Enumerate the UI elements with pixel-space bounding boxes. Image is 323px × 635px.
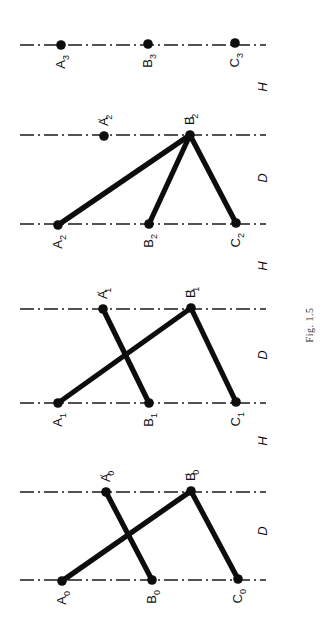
dash-dot-reference-lines (20, 45, 266, 580)
dimension-label-h-0: H (255, 82, 270, 92)
label-Aprime2: A′2 (96, 115, 114, 126)
dimension-label-d-5: D (255, 526, 270, 535)
label-C2: C2 (228, 233, 246, 247)
point-Bprime2 (185, 130, 195, 140)
label-C3: C3 (227, 53, 245, 67)
point-B0 (147, 575, 157, 585)
point-C3 (230, 38, 240, 48)
point-B2 (144, 219, 154, 229)
dimension-label-h-2: H (255, 261, 270, 271)
point-A0 (57, 576, 67, 586)
projection-diagram: A3B3C3A′2B′2A2B2C2A′1B′1A1B1C1A′0B′0A0B0… (0, 0, 323, 635)
link-segments (58, 135, 238, 581)
point-A3 (56, 40, 66, 50)
label-B2: B2 (141, 234, 159, 248)
point-Aprime0 (101, 487, 111, 497)
label-Aprime0: A′0 (98, 471, 116, 482)
dimension-label-d-3: D (255, 350, 270, 359)
point-A1 (53, 398, 63, 408)
point-B3 (143, 39, 153, 49)
joint-points (53, 38, 243, 586)
label-C0: C0 (230, 589, 248, 603)
segment-B'1-C1 (191, 308, 236, 402)
point-Aprime1 (98, 304, 108, 314)
figure-caption: Fig. 1.5 (304, 308, 315, 343)
label-Aprime1: A′1 (95, 288, 113, 299)
point-B1 (144, 398, 154, 408)
point-Aprime2 (99, 131, 109, 141)
label-Bprime0: B′0 (183, 470, 201, 481)
label-Bprime2: B′2 (182, 114, 200, 125)
point-C0 (233, 574, 243, 584)
label-B1: B1 (141, 413, 159, 427)
label-A1: A1 (50, 413, 68, 427)
segment-B'0-C0 (191, 491, 238, 579)
label-A3: A3 (53, 55, 71, 69)
label-B0: B0 (144, 590, 162, 604)
label-A0: A0 (54, 591, 72, 605)
label-B3: B3 (140, 54, 158, 68)
segment-A0-B'0 (62, 491, 191, 581)
label-Bprime1: B′1 (183, 287, 201, 298)
point-Bprime0 (186, 486, 196, 496)
point-C2 (231, 218, 241, 228)
point-Bprime1 (186, 303, 196, 313)
dimension-label-d-1: D (255, 173, 270, 182)
dimension-label-h-4: H (255, 436, 270, 446)
point-C1 (231, 397, 241, 407)
segment-C2-B'2 (190, 135, 236, 223)
label-A2: A2 (50, 235, 68, 249)
label-C1: C1 (228, 412, 246, 426)
point-A2 (53, 220, 63, 230)
segment-A1-B'1 (58, 308, 191, 403)
